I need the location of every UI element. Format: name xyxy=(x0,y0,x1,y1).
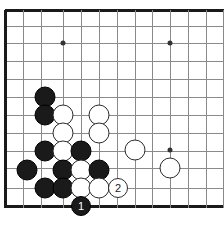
black-move-1[interactable]: 1 xyxy=(71,196,91,216)
grid-line-horizontal-2 xyxy=(5,43,224,44)
grid-line-horizontal-7 xyxy=(5,133,224,134)
go-diagram-figure: 21 xyxy=(0,0,224,228)
black-stone-d[interactable] xyxy=(71,141,92,162)
grid-line-horizontal-3 xyxy=(5,61,224,62)
grid-line-horizontal-11 xyxy=(5,205,224,208)
white-move-2[interactable]: 2 xyxy=(108,178,128,198)
white-stone-h[interactable] xyxy=(89,178,110,199)
white-stone-right-upper[interactable] xyxy=(125,140,146,161)
star-point-lower-right xyxy=(168,148,173,153)
grid-line-vertical-12 xyxy=(223,10,224,208)
grid-line-vertical-8 xyxy=(152,10,153,208)
star-point-upper-right xyxy=(168,41,173,46)
grid-line-vertical-0 xyxy=(4,10,7,208)
black-move-1-label: 1 xyxy=(72,197,90,215)
white-stone-d[interactable] xyxy=(89,123,110,144)
grid-line-horizontal-4 xyxy=(5,79,224,80)
go-board[interactable]: 21 xyxy=(0,0,224,228)
white-stone-right-lower[interactable] xyxy=(160,158,181,179)
grid-line-vertical-11 xyxy=(206,10,207,208)
grid-line-vertical-7 xyxy=(135,10,136,208)
grid-line-horizontal-9 xyxy=(5,168,224,169)
black-stone-e[interactable] xyxy=(17,160,38,181)
white-move-2-label: 2 xyxy=(109,179,127,197)
grid-line-horizontal-1 xyxy=(5,26,224,27)
grid-line-horizontal-0 xyxy=(5,9,224,12)
star-point-upper-left xyxy=(61,41,66,46)
grid-line-vertical-10 xyxy=(188,10,189,208)
